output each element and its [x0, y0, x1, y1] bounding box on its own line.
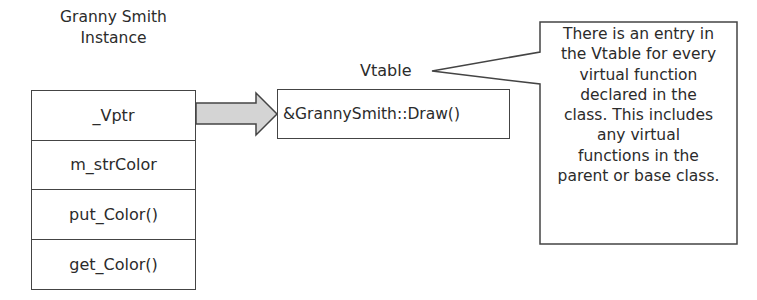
vtable-box: &GrannySmith::Draw() [277, 89, 510, 139]
callout-line: There is an entry in [541, 24, 736, 44]
vtable-entry: &GrannySmith::Draw() [283, 105, 460, 123]
callout-line: the Vtable for every [541, 44, 736, 64]
instance-row-vptr: _Vptr [32, 91, 195, 141]
instance-table: _Vptr m_strColor put_Color() get_Color() [31, 90, 196, 290]
callout-text: There is an entry in the Vtable for ever… [541, 24, 736, 186]
instance-row-get-color: get_Color() [32, 240, 195, 290]
instance-title-line1: Granny Smith [31, 7, 196, 28]
callout-line: virtual function [541, 65, 736, 85]
callout-line: parent or base class. [541, 166, 736, 186]
instance-title-line2: Instance [31, 28, 196, 49]
callout-line: declared in the [541, 85, 736, 105]
instance-title: Granny Smith Instance [31, 7, 196, 49]
instance-row-strcolor: m_strColor [32, 141, 195, 191]
callout-line: any virtual [541, 125, 736, 145]
block-arrow-right-icon [196, 93, 277, 135]
callout-line: class. This includes [541, 105, 736, 125]
vtable-label: Vtable [360, 61, 411, 80]
callout-line: functions in the [541, 146, 736, 166]
instance-row-put-color: put_Color() [32, 190, 195, 240]
